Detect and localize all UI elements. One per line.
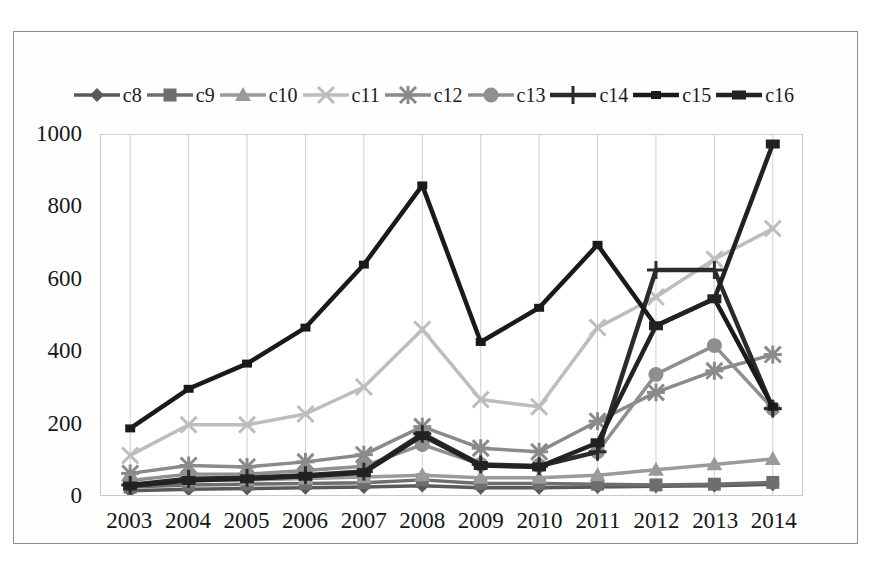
x-axis-tick: 2013 bbox=[692, 508, 738, 534]
legend-item-c10[interactable]: c10 bbox=[220, 84, 303, 107]
series-c15 bbox=[125, 181, 778, 432]
y-axis-tick: 200 bbox=[48, 411, 83, 437]
legend-item-c9[interactable]: c9 bbox=[147, 84, 220, 107]
x-axis-tick: 2014 bbox=[751, 508, 797, 534]
y-axis-tick: 0 bbox=[71, 483, 83, 509]
legend-item-c16[interactable]: c16 bbox=[716, 84, 799, 107]
asterisk-marker-icon bbox=[385, 86, 431, 104]
x-axis-tick: 2010 bbox=[516, 508, 562, 534]
chart-svg bbox=[101, 135, 802, 495]
legend-label-c10: c10 bbox=[266, 84, 303, 107]
triangle-marker-icon bbox=[220, 86, 266, 104]
legend-label-c12: c12 bbox=[431, 84, 468, 107]
square-marker-icon bbox=[147, 86, 193, 104]
legend-label-c9: c9 bbox=[193, 84, 220, 107]
x-axis-tick: 2005 bbox=[223, 508, 269, 534]
y-axis-tick: 400 bbox=[48, 338, 83, 364]
x-axis-tick: 2012 bbox=[634, 508, 680, 534]
y-axis-labels: 02004006008001000 bbox=[14, 124, 88, 496]
x-axis-tick: 2007 bbox=[341, 508, 387, 534]
legend-label-c8: c8 bbox=[120, 84, 147, 107]
plot-area bbox=[100, 134, 803, 496]
x-axis-tick: 2009 bbox=[458, 508, 504, 534]
legend-label-c13: c13 bbox=[514, 84, 551, 107]
circle-marker-icon bbox=[468, 86, 514, 104]
legend-label-c14: c14 bbox=[596, 84, 633, 107]
chart-legend: c8c9c10c11c12c13c14c15c16 bbox=[14, 78, 859, 112]
legend-item-c12[interactable]: c12 bbox=[385, 84, 468, 107]
thickbar-marker-icon bbox=[716, 86, 762, 104]
legend-label-c11: c11 bbox=[349, 84, 385, 107]
diamond-marker-icon bbox=[74, 86, 120, 104]
legend-item-c11[interactable]: c11 bbox=[303, 84, 385, 107]
x-axis-tick: 2006 bbox=[282, 508, 328, 534]
x-marker-icon bbox=[303, 86, 349, 104]
y-axis-tick: 600 bbox=[48, 266, 83, 292]
plus-marker-icon bbox=[550, 86, 596, 104]
legend-item-c8[interactable]: c8 bbox=[74, 84, 147, 107]
x-axis-tick: 2004 bbox=[165, 508, 211, 534]
y-axis-tick: 1000 bbox=[36, 121, 82, 147]
series-c11 bbox=[122, 221, 781, 464]
bar-marker-icon bbox=[633, 86, 679, 104]
legend-item-c15[interactable]: c15 bbox=[633, 84, 716, 107]
legend-label-c16: c16 bbox=[762, 84, 799, 107]
x-axis-tick: 2003 bbox=[106, 508, 152, 534]
x-axis-tick: 2008 bbox=[399, 508, 445, 534]
x-axis-tick: 2011 bbox=[575, 508, 620, 534]
plot-wrapper: 02004006008001000 2003200420052006200720… bbox=[14, 124, 859, 544]
x-axis-labels: 2003200420052006200720082009201020112012… bbox=[100, 508, 803, 540]
y-axis-tick: 800 bbox=[48, 193, 83, 219]
legend-label-c15: c15 bbox=[679, 84, 716, 107]
chart-frame: c8c9c10c11c12c13c14c15c16 02004006008001… bbox=[13, 31, 858, 544]
legend-item-c13[interactable]: c13 bbox=[468, 84, 551, 107]
legend-item-c14[interactable]: c14 bbox=[550, 84, 633, 107]
